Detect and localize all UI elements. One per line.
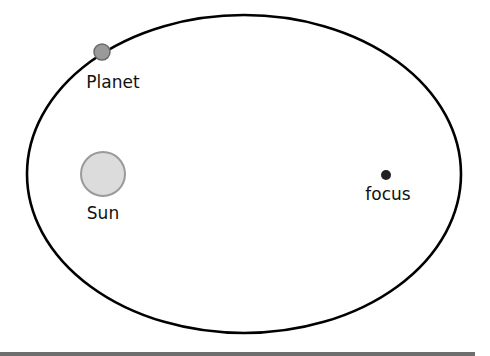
orbit-diagram-svg: Sun Planet focus — [0, 0, 490, 356]
bottom-divider-bar — [0, 352, 475, 356]
planet-label: Planet — [86, 72, 140, 92]
focus-point-icon — [381, 170, 391, 180]
focus-label: focus — [365, 184, 411, 204]
sun-label: Sun — [87, 203, 119, 223]
sun-icon — [81, 152, 125, 196]
orbit-diagram: Sun Planet focus — [0, 0, 490, 356]
planet-icon — [94, 44, 110, 60]
